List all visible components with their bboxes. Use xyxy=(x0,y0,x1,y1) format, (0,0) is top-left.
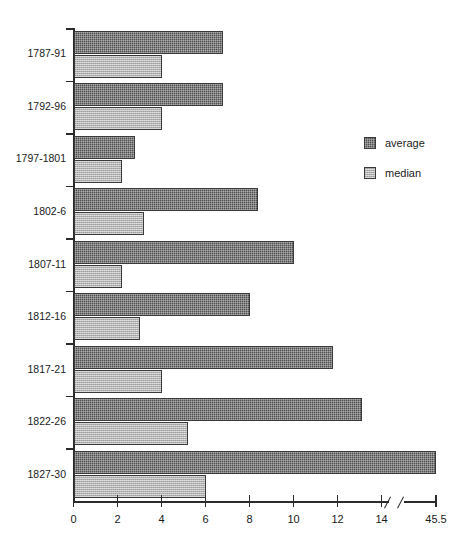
x-axis-tick xyxy=(161,495,163,507)
bar-average xyxy=(74,31,224,54)
bar-average xyxy=(74,398,362,421)
y-axis-tick xyxy=(66,238,74,240)
bar-median xyxy=(74,212,144,235)
x-axis-tick-label: 12 xyxy=(318,513,358,526)
bar-average xyxy=(74,188,259,211)
bar-median xyxy=(74,317,140,340)
x-axis-tick-label: 4 xyxy=(142,513,182,526)
category-label: 1812-16 xyxy=(0,310,66,322)
x-axis-tick xyxy=(249,495,251,507)
y-axis-tick xyxy=(66,81,74,83)
y-axis-tick xyxy=(66,28,74,30)
x-axis-tick-label: 6 xyxy=(186,513,226,526)
x-axis-tick xyxy=(435,495,437,507)
legend-entry-median: median xyxy=(364,158,425,188)
legend: average median xyxy=(364,128,425,188)
category-label: 1792-96 xyxy=(0,100,66,112)
x-axis-tick-label: 0 xyxy=(54,513,94,526)
bar-average xyxy=(74,83,224,106)
bar-median xyxy=(74,160,122,183)
bar-chart: 1787-911792-961797-18011802-61807-111812… xyxy=(0,0,454,557)
bar-median xyxy=(74,265,122,288)
bar-median xyxy=(74,55,162,78)
category-label: 1802-6 xyxy=(0,205,66,217)
bar-average xyxy=(74,293,250,316)
plot-area: 1787-911792-961797-18011802-61807-111812… xyxy=(0,0,454,557)
legend-label-median: median xyxy=(385,167,421,179)
y-axis-tick xyxy=(66,343,74,345)
category-label: 1827-30 xyxy=(0,468,66,480)
category-label: 1822-26 xyxy=(0,415,66,427)
x-axis-tick-label: 10 xyxy=(274,513,314,526)
x-axis-tick xyxy=(73,495,75,507)
bar-average xyxy=(74,346,334,369)
legend-entry-average: average xyxy=(364,128,425,158)
x-axis-tick-label: 2 xyxy=(98,513,138,526)
legend-label-average: average xyxy=(385,137,425,149)
bar-average xyxy=(74,451,437,474)
x-axis-tick xyxy=(205,495,207,507)
y-axis-tick xyxy=(66,291,74,293)
category-label: 1817-21 xyxy=(0,363,66,375)
y-axis-tick xyxy=(66,133,74,135)
axis-break-mark-right xyxy=(400,496,412,508)
legend-swatch-average-icon xyxy=(364,137,376,149)
bar-average xyxy=(74,136,136,159)
y-axis-tick xyxy=(66,186,74,188)
bar-average xyxy=(74,241,294,264)
category-label: 1797-1801 xyxy=(0,152,66,164)
x-axis-tick xyxy=(293,495,295,507)
bar-median xyxy=(74,370,162,393)
x-axis-tick xyxy=(337,495,339,507)
bar-median xyxy=(74,422,188,445)
x-axis-tick xyxy=(381,495,383,507)
bar-median xyxy=(74,475,206,498)
x-axis-tick-label: 8 xyxy=(230,513,270,526)
x-axis-tick-label: 14 xyxy=(362,513,402,526)
category-label: 1807-11 xyxy=(0,258,66,270)
bar-median xyxy=(74,107,162,130)
y-axis-tick xyxy=(66,448,74,450)
category-label: 1787-91 xyxy=(0,47,66,59)
x-axis-line xyxy=(73,501,389,503)
y-axis-tick xyxy=(66,396,74,398)
x-axis-tick xyxy=(117,495,119,507)
x-axis-tick-label: 45.5 xyxy=(416,513,454,526)
legend-swatch-median-icon xyxy=(364,167,376,179)
